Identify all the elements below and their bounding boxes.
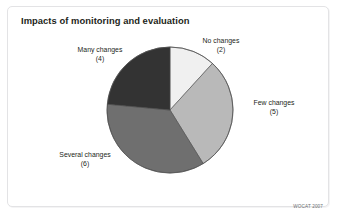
pie-label-few-changes: Few changes (5) — [236, 98, 312, 116]
pie-chart: No changes (2) Few changes (5) Several c… — [0, 0, 337, 218]
pie-label-many-changes-count: (4) — [62, 54, 138, 63]
pie-label-few-changes-count: (5) — [236, 107, 312, 116]
pie-label-many-changes-text: Many changes — [78, 46, 123, 53]
pie-label-few-changes-text: Few changes — [254, 99, 295, 106]
pie-label-several-changes: Several changes (6) — [42, 150, 128, 168]
pie-label-many-changes: Many changes (4) — [62, 45, 138, 63]
figure-root: Impacts of monitoring and evaluation No … — [0, 0, 337, 218]
pie-label-no-changes-text: No changes — [203, 37, 240, 44]
pie-label-several-changes-text: Several changes — [59, 151, 110, 158]
pie-label-several-changes-count: (6) — [42, 159, 128, 168]
source-credit: WOCAT 2007 — [293, 204, 323, 209]
pie-label-no-changes-count: (2) — [185, 45, 257, 54]
pie-label-no-changes: No changes (2) — [185, 36, 257, 54]
